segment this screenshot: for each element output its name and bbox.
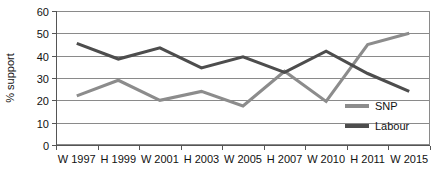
y-axis-tick-label: 50: [37, 28, 49, 40]
x-axis-category-label: W 1997: [58, 153, 96, 165]
y-axis-tick-label: 10: [37, 118, 49, 130]
line-chart: 0102030405060W 1997H 1999W 2001H 2003W 2…: [0, 0, 443, 170]
chart-canvas: 0102030405060W 1997H 1999W 2001H 2003W 2…: [0, 0, 443, 170]
legend: SNPLabour: [345, 100, 410, 132]
y-axis-tick-label: 0: [43, 140, 49, 152]
series-group: [77, 33, 409, 106]
x-axis-category-label: H 2003: [184, 153, 219, 165]
gridlines-group: [56, 12, 430, 146]
y-axis-tick-label: 40: [37, 51, 49, 63]
y-axis-tick-label: 20: [37, 95, 49, 107]
x-axis-category-label: H 1999: [101, 153, 136, 165]
y-axis-title: % support: [4, 53, 16, 103]
y-axis-tick-label: 30: [37, 73, 49, 85]
x-axis-category-label: H 2007: [267, 153, 302, 165]
x-axis-category-label: W 2015: [390, 153, 428, 165]
x-axis: W 1997H 1999W 2001H 2003W 2005H 2007W 20…: [56, 146, 431, 166]
x-axis-category-label: H 2011: [350, 153, 385, 165]
x-axis-category-label: W 2001: [141, 153, 179, 165]
x-axis-category-label: W 2010: [307, 153, 345, 165]
legend-label-snp: SNP: [375, 100, 398, 112]
y-axis: 0102030405060: [37, 6, 57, 152]
legend-label-labour: Labour: [375, 120, 410, 132]
y-axis-tick-label: 60: [37, 6, 49, 18]
x-axis-category-label: W 2005: [224, 153, 262, 165]
